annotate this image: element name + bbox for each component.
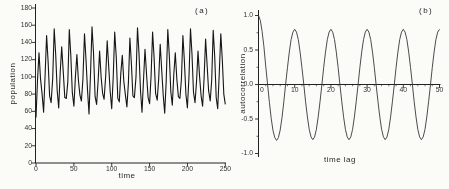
panel-b-x-tick-label: 30 (358, 87, 376, 94)
panel-a-y-tick-label: 60 (16, 108, 32, 115)
panel-a-y-tick-label: 40 (16, 125, 32, 132)
panel-b-origin-label: 0 (260, 87, 268, 94)
panel-b-y-tick-label: -0.5 (233, 116, 253, 123)
panel-b-y-tick-label: 1.0 (233, 12, 253, 19)
panel-b-y-tick-label: 0.5 (233, 47, 253, 54)
panel-b-tag: (b) (419, 7, 433, 15)
plot-graphics (0, 0, 449, 189)
panel-a-x-tick-label: 100 (103, 166, 121, 173)
panel-a-tag: (a) (195, 7, 209, 15)
panel-a-x-tick-label: 0 (27, 166, 45, 173)
data-series (259, 16, 440, 141)
panel-b-x-tick-label: 50 (431, 87, 449, 94)
panel-b-x-tick-label: 10 (286, 87, 304, 94)
data-series (36, 27, 225, 118)
panel-a-y-tick-label: 180 (16, 5, 32, 12)
panel-a-y-tick-label: 20 (16, 143, 32, 150)
panel-a-y-tick-label: 160 (16, 22, 32, 29)
panel-a-x-tick-label: 50 (65, 166, 83, 173)
panel-a-y-tick-label: 100 (16, 74, 32, 81)
panel-b-x-tick-label: 40 (394, 87, 412, 94)
panel-a-y-tick-label: 80 (16, 91, 32, 98)
panel-a-y-tick-label: 140 (16, 39, 32, 46)
panel-b-y-tick-label: -1.0 (233, 150, 253, 157)
panel-a-x-tick-label: 150 (141, 166, 159, 173)
panel-b-x-tick-label: 20 (322, 87, 340, 94)
figure-canvas: population time (a) autocorrelation time… (0, 0, 449, 189)
panel-b-xlabel: time lag (310, 156, 370, 164)
panel-a-xlabel: time (97, 172, 157, 180)
panel-a-x-tick-label: 250 (216, 166, 234, 173)
panel-b-y-tick-label: 0.0 (233, 81, 253, 88)
panel-a-y-tick-label: 120 (16, 56, 32, 63)
panel-a-x-tick-label: 200 (178, 166, 196, 173)
